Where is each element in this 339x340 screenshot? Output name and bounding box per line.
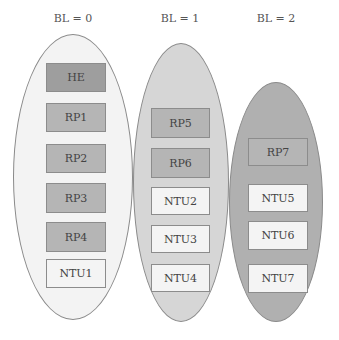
node-ntu7: NTU7 [248,264,308,293]
node-rp6: RP6 [151,148,210,178]
node-ntu4: NTU4 [151,264,210,292]
group-label-bl0: BL = 0 [43,12,103,25]
node-rp5: RP5 [151,108,210,138]
node-rp1: RP1 [46,103,106,132]
node-ntu1: NTU1 [46,259,106,288]
node-ntu6: NTU6 [248,221,308,250]
node-he: HE [46,63,106,92]
node-ntu2: NTU2 [151,187,210,215]
group-label-bl2: BL = 2 [246,12,306,25]
node-rp7: RP7 [248,138,308,166]
node-ntu5: NTU5 [248,184,308,212]
battery-level-diagram: BL = 0HERP1RP2RP3RP4NTU1BL = 1RP5RP6NTU2… [0,0,339,340]
group-label-bl1: BL = 1 [150,12,210,25]
node-ntu3: NTU3 [151,225,210,253]
node-rp3: RP3 [46,183,106,213]
node-rp2: RP2 [46,144,106,173]
node-rp4: RP4 [46,222,106,252]
